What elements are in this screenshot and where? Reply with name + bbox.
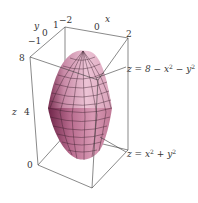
y-tick: 1 <box>53 20 59 30</box>
y-axis-label: y <box>33 21 40 31</box>
paraboloid-region-figure: y −1 0 1 −2 0 x 2 8 z 4 0 z = 8 − x2 − y… <box>0 0 198 203</box>
z-tick: 0 <box>27 160 33 170</box>
z-axis-labels: 8 z 4 0 <box>11 53 33 170</box>
y-tick: −1 <box>28 36 41 46</box>
x-axis-labels: −2 0 x 2 <box>59 14 132 39</box>
z-tick: 8 <box>19 53 25 63</box>
upper-surface-equation: z = 8 − x2 − y2 <box>126 63 195 74</box>
y-tick: 0 <box>42 28 48 38</box>
x-tick: −2 <box>59 15 72 25</box>
upper-surface <box>48 51 112 108</box>
y-axis-labels: y −1 0 1 <box>28 20 59 46</box>
z-tick: 4 <box>24 107 30 117</box>
x-axis-label: x <box>105 14 110 24</box>
x-tick: 2 <box>126 29 132 39</box>
x-tick: 0 <box>94 22 100 32</box>
lower-surface-equation: z = x2 + y2 <box>126 148 176 159</box>
z-axis-label: z <box>11 107 17 117</box>
